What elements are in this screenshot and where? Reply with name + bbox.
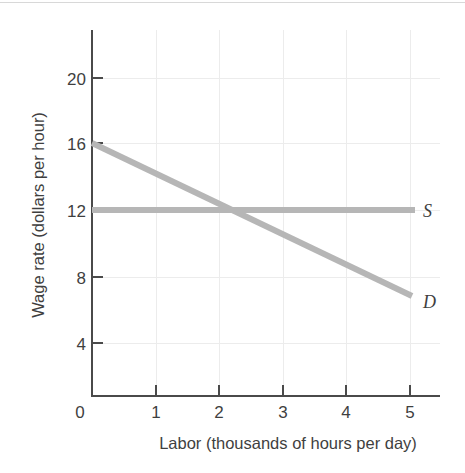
demand-curve [92,143,412,296]
x-tick-label-2: 2 [214,403,223,422]
chart-canvas: 20 16 12 8 4 0 1 2 3 4 5 S D Wage rate (… [0,0,465,473]
y-tick-label-16: 16 [67,135,86,154]
y-tick-label-20: 20 [67,70,86,89]
x-axis-title: Labor (thousands of hours per day) [159,434,417,452]
y-tick-label-12: 12 [67,202,86,221]
x-tick-label-0: 0 [75,403,84,422]
x-tick-label-3: 3 [278,403,287,422]
x-tick-label-4: 4 [341,403,350,422]
y-axis-title: Wage rate (dollars per hour) [29,112,47,318]
x-tick-label-5: 5 [405,403,414,422]
demand-curve-label: D [422,292,436,312]
x-tick-label-1: 1 [151,403,160,422]
y-axis-tick-labels: 20 16 12 8 4 [67,70,86,354]
y-tick-label-8: 8 [77,269,86,288]
x-axis-tick-labels: 0 1 2 3 4 5 [75,403,414,422]
x-axis-ticks [156,385,410,396]
supply-curve-label: S [423,201,432,221]
economics-supply-demand-chart: 20 16 12 8 4 0 1 2 3 4 5 S D Wage rate (… [0,0,465,473]
y-tick-label-4: 4 [77,335,86,354]
